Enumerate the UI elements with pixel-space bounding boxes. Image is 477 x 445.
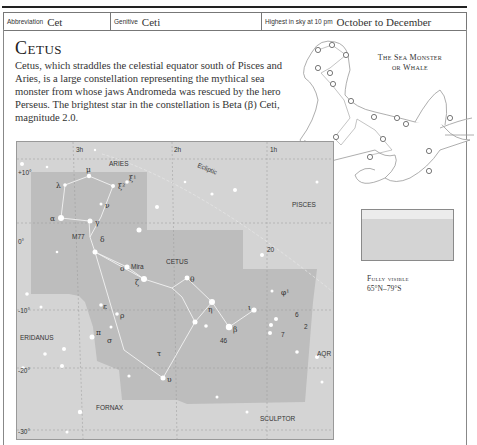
star-sigma: σ bbox=[107, 336, 112, 345]
star-mira: Mira bbox=[131, 263, 144, 270]
star-theta: θ bbox=[190, 275, 195, 284]
star-chart: 3h 2h 1h +10° 0° -10° -20° -30° Ecliptic… bbox=[16, 141, 334, 440]
star-nu: ν bbox=[105, 201, 110, 210]
star-mu: μ bbox=[86, 165, 91, 174]
star-upsilon: υ bbox=[167, 375, 172, 384]
dec-tick-minus10: -10° bbox=[18, 307, 30, 314]
genitive-value: Ceti bbox=[142, 16, 160, 28]
star-m77: M77 bbox=[72, 233, 85, 240]
label-fornax: FORNAX bbox=[96, 404, 124, 411]
label-aqr: AQR bbox=[317, 350, 331, 358]
star-xi2: ξ² bbox=[118, 182, 125, 191]
highest-label: Highest in sky at 10 pm bbox=[265, 18, 333, 25]
world-visibility-map bbox=[361, 209, 454, 261]
ra-tick-2h: 2h bbox=[174, 146, 182, 153]
star-46: 46 bbox=[220, 337, 228, 344]
dec-tick-minus20: -20° bbox=[18, 367, 30, 374]
dec-tick-minus30: -30° bbox=[18, 428, 30, 435]
abbreviation-cell: Abbreviation Cet bbox=[4, 13, 111, 30]
ra-tick-3h: 3h bbox=[76, 146, 84, 153]
star-omicron: ο bbox=[120, 264, 125, 273]
star-rho: ρ bbox=[120, 311, 125, 320]
dec-tick-0: 0° bbox=[18, 238, 25, 245]
label-cetus: CETUS bbox=[166, 258, 189, 265]
caption-line-1: The Sea Monster bbox=[355, 53, 465, 63]
visibility-label: Fully visible bbox=[367, 274, 409, 284]
highest-value: October to December bbox=[337, 16, 432, 28]
star-chart-svg: 3h 2h 1h +10° 0° -10° -20° -30° Ecliptic… bbox=[17, 142, 333, 439]
star-eta: η bbox=[208, 305, 213, 314]
star-alpha: α bbox=[50, 214, 55, 223]
page-title: Cetus bbox=[15, 38, 62, 59]
genitive-cell: Genitive Ceti bbox=[111, 13, 262, 30]
star-gamma: γ bbox=[95, 218, 100, 227]
star-xi1: ξ¹ bbox=[129, 174, 136, 183]
label-pisces: PISCES bbox=[292, 201, 317, 208]
star-pi: π bbox=[96, 328, 101, 337]
abbreviation-label: Abbreviation bbox=[7, 18, 43, 25]
visibility-range: 65°N–79°S bbox=[367, 284, 409, 294]
star-7: 7 bbox=[281, 331, 285, 338]
star-epsilon: ε bbox=[103, 302, 107, 311]
star-6: 6 bbox=[295, 311, 299, 318]
caption-line-2: or Whale bbox=[355, 63, 465, 73]
star-lambda: λ bbox=[56, 181, 61, 190]
illustration-caption: The Sea Monster or Whale bbox=[355, 53, 465, 73]
ra-tick-1h: 1h bbox=[270, 146, 278, 153]
top-rule bbox=[2, 6, 467, 8]
label-eridanus: ERIDANUS bbox=[20, 334, 54, 341]
abbreviation-value: Cet bbox=[47, 16, 62, 28]
description: Cetus, which straddles the celestial equ… bbox=[15, 59, 295, 124]
dec-tick-plus10: +10° bbox=[18, 169, 32, 176]
genitive-label: Genitive bbox=[114, 18, 138, 25]
star-tau: τ bbox=[157, 349, 161, 358]
star-iota: ι bbox=[248, 303, 251, 312]
visibility-info: Fully visible 65°N–79°S bbox=[367, 274, 409, 294]
highest-cell: Highest in sky at 10 pm October to Decem… bbox=[262, 13, 466, 30]
star-20: 20 bbox=[267, 246, 275, 253]
star-phi1: φ¹ bbox=[281, 288, 289, 297]
star-zeta: ζ bbox=[135, 278, 139, 287]
star-beta: β bbox=[233, 325, 237, 334]
label-aries: ARIES bbox=[109, 160, 129, 167]
label-sculptor: SCULPTOR bbox=[260, 415, 296, 422]
star-2: 2 bbox=[304, 323, 308, 330]
star-delta: δ bbox=[100, 235, 105, 244]
